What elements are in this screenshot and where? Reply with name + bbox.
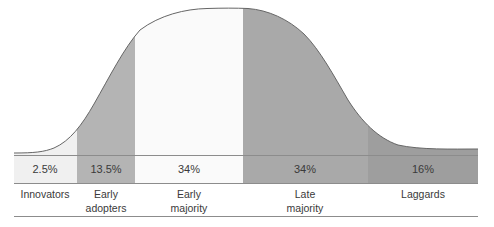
percent-label-late-majority: 34% — [294, 163, 316, 175]
percent-label-early-majority: 34% — [178, 163, 200, 175]
percent-label-innovators: 2.5% — [32, 163, 57, 175]
category-label-late-majority-line1: Late — [295, 188, 316, 200]
category-label-laggards: Laggards — [401, 188, 445, 200]
category-label-early-majority-line2: majority — [171, 202, 209, 214]
category-label-early-adopters-line1: Early — [94, 188, 119, 200]
percent-label-early-adopters: 13.5% — [90, 163, 121, 175]
diffusion-of-innovation-chart: 2.5% 13.5% 34% 34% 16% Innovators Early … — [0, 0, 494, 227]
category-label-innovators: Innovators — [20, 188, 69, 200]
category-label-early-majority-line1: Early — [177, 188, 202, 200]
bell-curve-svg: 2.5% 13.5% 34% 34% 16% Innovators Early … — [0, 0, 494, 227]
category-label-early-adopters-line2: adopters — [86, 202, 127, 214]
percent-label-laggards: 16% — [412, 163, 434, 175]
category-label-late-majority-line2: majority — [287, 202, 325, 214]
